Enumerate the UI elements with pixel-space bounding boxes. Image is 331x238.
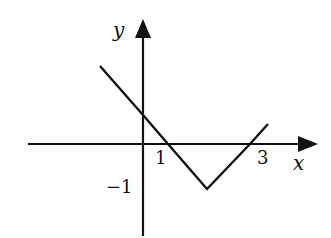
x-axis-arrow-icon bbox=[298, 136, 318, 152]
tick-label-3: 3 bbox=[257, 147, 268, 168]
graph-canvas: y x 1 3 −1 bbox=[0, 0, 331, 238]
y-axis-arrow-icon bbox=[135, 19, 151, 38]
x-axis-label: x bbox=[293, 151, 304, 175]
tick-label-1: 1 bbox=[155, 147, 166, 168]
function-graph bbox=[100, 66, 268, 189]
tick-label-neg1: −1 bbox=[106, 176, 133, 197]
y-axis-label: y bbox=[112, 18, 125, 42]
